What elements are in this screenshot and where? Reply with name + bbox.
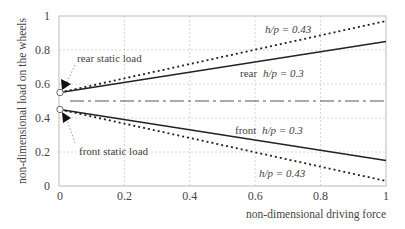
svg-text:0: 0 bbox=[57, 189, 63, 203]
rear-static-leader bbox=[66, 65, 75, 84]
y-ticks: 0 0.2 0.4 0.6 0.8 1 bbox=[35, 9, 50, 193]
svg-text:0.2: 0.2 bbox=[117, 189, 132, 203]
rear-043-label: h/p = 0.43 bbox=[265, 23, 312, 35]
rear-03-label: h/p = 0.3 bbox=[263, 67, 304, 79]
y-axis-label: non-dimensional load on the wheels bbox=[16, 17, 28, 184]
svg-text:1: 1 bbox=[383, 189, 389, 203]
x-axis-label: non-dimensional driving force bbox=[246, 208, 386, 221]
rear-03-prefix: rear bbox=[240, 67, 257, 79]
rear-static-marker bbox=[57, 89, 63, 95]
front-03-label: h/p = 0.3 bbox=[262, 124, 303, 136]
x-ticks: 0 0.2 0.4 0.6 0.8 1 bbox=[57, 189, 389, 203]
front-static-marker bbox=[57, 106, 63, 112]
front-static-arrow-icon bbox=[62, 112, 71, 123]
svg-text:0.8: 0.8 bbox=[313, 189, 328, 203]
svg-text:0.4: 0.4 bbox=[35, 111, 50, 125]
front-03-prefix: front bbox=[235, 124, 256, 136]
svg-text:0.2: 0.2 bbox=[35, 145, 50, 159]
rear-static-arrow-icon bbox=[61, 79, 71, 90]
svg-text:0: 0 bbox=[44, 179, 50, 193]
front-static-leader bbox=[67, 120, 75, 143]
svg-text:0.4: 0.4 bbox=[182, 189, 197, 203]
svg-text:0.8: 0.8 bbox=[35, 43, 50, 57]
rear-03-line bbox=[60, 42, 386, 93]
svg-text:0.6: 0.6 bbox=[35, 77, 50, 91]
chart: 0 0.2 0.4 0.6 0.8 1 0 0.2 0.4 0.6 0.8 1 … bbox=[0, 0, 405, 229]
rear-static-label: rear static load bbox=[77, 52, 142, 64]
svg-text:0.6: 0.6 bbox=[248, 189, 263, 203]
front-static-label: front static load bbox=[79, 145, 149, 157]
front-043-label: h/p = 0.43 bbox=[259, 167, 306, 179]
svg-text:1: 1 bbox=[44, 9, 50, 23]
